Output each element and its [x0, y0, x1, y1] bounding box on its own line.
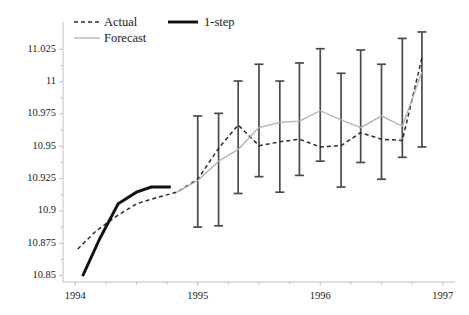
x-tick-label: 1997	[432, 290, 453, 301]
axis-layer	[59, 22, 455, 286]
x-tick-label: 1995	[187, 290, 208, 301]
error-bar	[234, 81, 243, 193]
y-tick-label: 10.975	[27, 107, 56, 118]
legend-item: Actual	[74, 15, 138, 29]
y-tick-label: 11.025	[28, 43, 57, 54]
y-tick-label: 10.9	[38, 204, 56, 215]
legend-item: 1-step	[168, 15, 235, 29]
series-line-1-step	[83, 187, 171, 276]
legend-label: Forecast	[104, 31, 147, 45]
error-bar	[377, 64, 386, 179]
error-bar	[337, 73, 346, 187]
error-bar	[356, 50, 365, 162]
error-bar	[398, 38, 407, 157]
error-bar	[316, 49, 325, 161]
chart-legend: Actual1-stepForecast	[74, 15, 235, 45]
series-layer	[78, 58, 422, 276]
legend-label: Actual	[104, 15, 138, 29]
y-tick-label: 10.85	[32, 269, 56, 280]
legend-item: Forecast	[74, 31, 147, 45]
chart-container: 10.8510.87510.910.92510.9510.9751111.025…	[0, 0, 469, 315]
y-tick-label: 10.875	[27, 237, 56, 248]
series-line-actual	[78, 58, 422, 249]
error-bar-layer	[193, 32, 426, 227]
error-bar	[214, 113, 223, 225]
error-bar	[275, 81, 284, 192]
error-bar	[255, 64, 264, 176]
error-bar	[193, 116, 202, 227]
forecast-chart: 10.8510.87510.910.92510.9510.9751111.025…	[0, 0, 469, 315]
legend-label: 1-step	[204, 15, 235, 29]
y-tick-label: 10.95	[32, 140, 56, 151]
error-bar	[417, 32, 426, 147]
y-tick-label: 11	[46, 75, 56, 86]
x-tick-label: 1996	[310, 290, 331, 301]
x-tick-label: 1994	[65, 290, 87, 301]
y-tick-label: 10.925	[27, 172, 56, 183]
